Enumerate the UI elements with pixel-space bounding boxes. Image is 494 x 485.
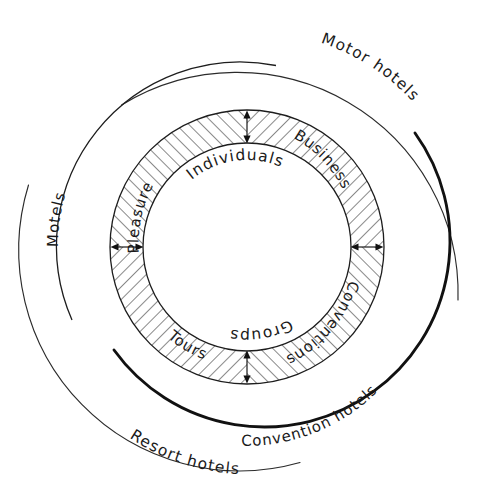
diagram-canvas: Motor hotels Resort hotels Motels Conven…: [0, 0, 494, 485]
motels-arc-line: [56, 62, 276, 320]
segment-annulus: [100, 100, 400, 400]
core-labels: Individuals Groups: [183, 146, 296, 345]
annulus-inner-circle: [143, 143, 351, 351]
motor-hotels-label: Motor hotels: [319, 29, 423, 105]
convention-hotels-label: Convention hotels: [241, 381, 381, 450]
conventions-hatch: [100, 100, 400, 400]
motels-label: Motels: [44, 190, 70, 248]
resort-hotels-label: Resort hotels: [127, 426, 241, 478]
motor-hotels-arc-line: [122, 72, 458, 300]
concentric-market-diagram: Motor hotels Resort hotels Motels Conven…: [0, 0, 494, 485]
groups-label: Groups: [228, 316, 296, 345]
